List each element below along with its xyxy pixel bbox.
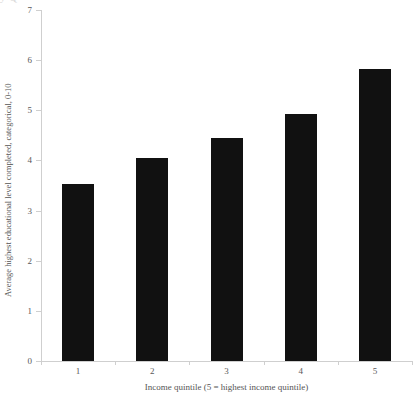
x-axis-tick-label: 3 (212, 367, 242, 376)
y-axis-tick-mark (36, 60, 41, 61)
x-axis-tick-mark (412, 361, 413, 365)
x-axis-line (41, 361, 412, 362)
x-axis-title: Income quintile (5 = highest income quin… (41, 383, 412, 392)
x-axis-tick-label: 4 (286, 367, 316, 376)
x-axis-tick-label: 1 (63, 367, 93, 376)
bar-5 (359, 69, 391, 361)
y-axis-tick-mark (36, 261, 41, 262)
bar-chart-plot-area: 01234567 12345 Average highest education… (0, 0, 419, 399)
y-axis-title: Average highest educational level comple… (4, 30, 13, 350)
x-axis-tick-mark (264, 361, 265, 365)
y-axis-tick-mark (36, 211, 41, 212)
x-axis-tick-mark (189, 361, 190, 365)
y-axis-tick-mark (36, 311, 41, 312)
y-axis-tick-mark (36, 160, 41, 161)
y-axis-tick-label: 0 (0, 357, 32, 366)
chart-screenshot: y Q 01234567 12345 Average highest educa… (0, 0, 419, 399)
x-axis-tick-label: 2 (137, 367, 167, 376)
bar-3 (211, 138, 243, 361)
x-axis-tick-mark (338, 361, 339, 365)
bar-4 (285, 114, 317, 361)
x-axis-tick-mark (115, 361, 116, 365)
y-axis-tick-mark (36, 110, 41, 111)
x-axis-tick-mark (41, 361, 42, 365)
bar-1 (62, 184, 94, 361)
bar-2 (136, 158, 168, 361)
x-axis-tick-label: 5 (360, 367, 390, 376)
y-axis-line (41, 10, 42, 362)
y-axis-tick-mark (36, 10, 41, 11)
y-axis-tick-label: 7 (0, 6, 32, 15)
